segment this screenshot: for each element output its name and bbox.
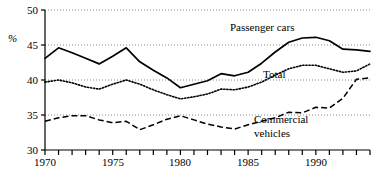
x-tick-label-1985: 1985 [237,156,260,168]
y-tick-label-35: 35 [27,109,39,121]
x-tick-label-1975: 1975 [102,156,125,168]
y-tick-label-40: 40 [27,74,39,86]
x-tick-label-1990: 1990 [305,156,328,168]
series-annotation-passenger-cars: Passenger cars [230,21,294,33]
y-tick-label-50: 50 [27,4,39,16]
y-tick-label-30: 30 [27,144,39,156]
line-chart: 50 45 40 35 30 % 1970 1975 1980 1985 199… [0,0,379,177]
x-tick-label-1970: 1970 [34,156,57,168]
series-annotation-commercial-vehicles-line2: vehicles [254,127,290,139]
x-tick-label-1980: 1980 [169,156,192,168]
y-axis-unit-label: % [8,32,17,44]
chart-container: 50 45 40 35 30 % 1970 1975 1980 1985 199… [0,0,379,177]
series-annotation-commercial-vehicles-line1: Commercial [254,113,308,125]
series-annotation-total: Total [263,68,285,80]
x-axis-ticks [45,150,370,155]
y-tick-label-45: 45 [27,39,39,51]
